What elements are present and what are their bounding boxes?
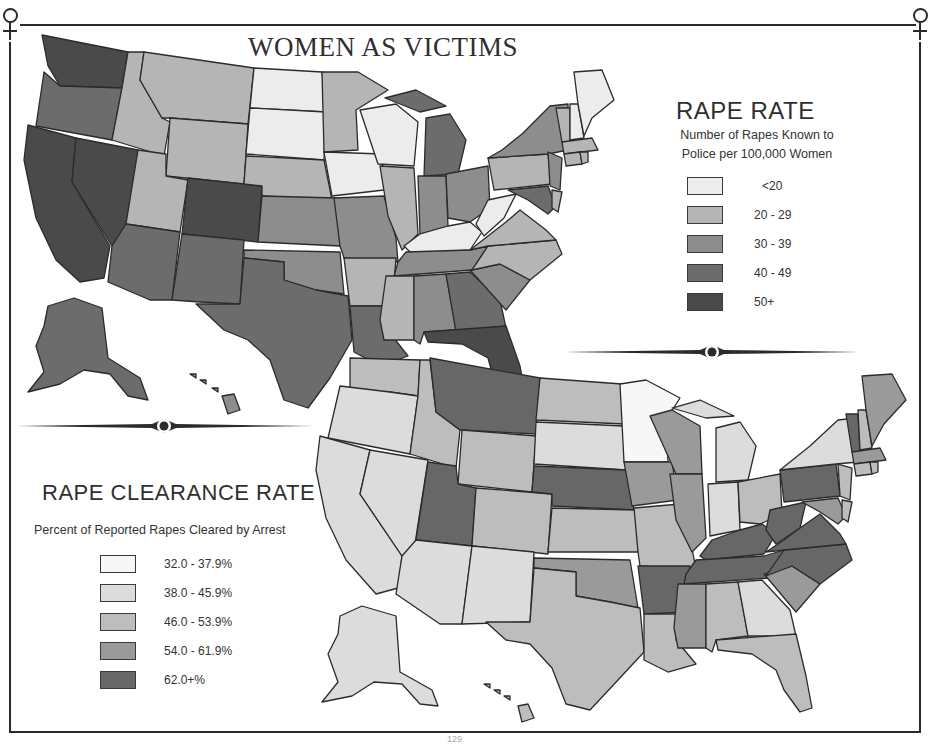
state-nj	[838, 464, 852, 500]
legend-swatch	[100, 642, 136, 660]
legend-swatch	[100, 671, 136, 689]
state-nd	[536, 378, 624, 424]
state-ia	[324, 152, 384, 196]
legend-label: 32.0 - 37.9%	[164, 557, 232, 571]
legend-swatch	[687, 177, 723, 195]
state-wa	[42, 35, 128, 88]
legend-label: 46.0 - 53.9%	[164, 615, 232, 629]
legend-label: 54.0 - 61.9%	[164, 644, 232, 658]
state-ny	[780, 418, 858, 470]
state-de	[552, 190, 562, 212]
state-ks	[548, 508, 638, 552]
state-wy	[458, 430, 536, 492]
rape-rate-legend-item: 30 - 39	[687, 235, 791, 253]
state-wy	[166, 118, 248, 184]
state-fl	[716, 634, 812, 712]
state-mi	[424, 114, 466, 176]
clearance-legend-item: 32.0 - 37.9%	[100, 555, 232, 573]
state-in	[418, 176, 448, 234]
clearance-legend-item: 46.0 - 53.9%	[100, 613, 232, 631]
legend-label: 30 - 39	[754, 237, 791, 251]
state-nm	[172, 234, 244, 304]
legend-label: 50+	[754, 295, 774, 309]
legend-label: 20 - 29	[754, 208, 791, 222]
state-ms	[380, 276, 414, 340]
clearance-rate-subtitle: Percent of Reported Rapes Cleared by Arr…	[34, 523, 286, 537]
state-co	[472, 488, 552, 554]
state-pa	[488, 154, 552, 190]
state-nd	[250, 68, 326, 112]
legend-swatch	[687, 206, 723, 224]
state-in	[708, 482, 740, 536]
state-ny	[488, 104, 568, 158]
state-hi	[190, 374, 240, 414]
state-hi	[484, 684, 534, 722]
state-az	[108, 224, 180, 300]
rape-rate-subtitle-line2: Police per 100,000 Women	[662, 145, 852, 164]
state-md	[508, 186, 556, 214]
state-ks	[258, 196, 340, 246]
state-co	[182, 178, 262, 242]
state-nm	[462, 546, 534, 624]
state-ms	[674, 584, 706, 648]
legend-swatch	[687, 264, 723, 282]
legend-swatch	[687, 235, 723, 253]
state-pa	[780, 464, 840, 502]
legend-swatch	[687, 293, 723, 311]
legend-label: <20	[762, 179, 782, 193]
divider-right	[564, 345, 860, 359]
state-nj	[548, 152, 562, 190]
state-ct	[854, 462, 872, 476]
clearance-legend-item: 54.0 - 61.9%	[100, 642, 232, 660]
rape-rate-subtitle-line1: Number of Rapes Known to	[662, 126, 852, 145]
legend-swatch	[100, 613, 136, 631]
rape-rate-legend-item: 50+	[687, 293, 774, 311]
legend-label: 38.0 - 45.9%	[164, 586, 232, 600]
state-de	[842, 500, 852, 522]
state-ak	[322, 606, 438, 706]
legend-swatch	[100, 555, 136, 573]
state-ri	[580, 152, 588, 164]
page-number: 129	[447, 734, 462, 744]
legend-label: 62.0+%	[164, 673, 205, 687]
legend-swatch	[100, 584, 136, 602]
clearance-rate-title: RAPE CLEARANCE RATE	[42, 480, 315, 506]
rape-rate-legend-item: 20 - 29	[687, 206, 791, 224]
clearance-rate-map	[316, 358, 906, 722]
page-title: WOMEN AS VICTIMS	[248, 32, 518, 63]
state-sd	[246, 108, 326, 160]
divider-left	[16, 419, 314, 433]
rape-rate-legend-item: 40 - 49	[687, 264, 791, 282]
rape-rate-map	[24, 35, 614, 414]
state-ct	[564, 152, 582, 166]
state-az	[396, 540, 472, 624]
state-ak	[28, 298, 148, 400]
state-mi	[716, 422, 756, 482]
clearance-legend-item: 62.0+%	[100, 671, 205, 689]
rape-rate-subtitle: Number of Rapes Known to Police per 100,…	[662, 126, 852, 164]
rape-rate-title: RAPE RATE	[676, 97, 815, 125]
legend-label: 40 - 49	[754, 266, 791, 280]
state-ia	[624, 462, 678, 506]
state-sd	[534, 422, 626, 470]
clearance-legend-item: 38.0 - 45.9%	[100, 584, 232, 602]
rape-rate-legend-item: <20	[687, 177, 782, 195]
state-ri	[870, 462, 878, 474]
